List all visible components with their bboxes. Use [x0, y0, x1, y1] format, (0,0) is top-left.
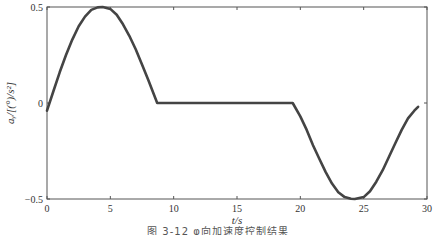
x-tick-label: 25 — [359, 203, 369, 214]
line-chart: 051015202530 −0.500.5 t/s aᵧ/[(°)/s²] — [0, 0, 436, 235]
y-tick-label: −0.5 — [25, 194, 43, 205]
x-tick-label: 30 — [422, 203, 432, 214]
y-tick-label: 0.5 — [31, 2, 44, 13]
x-tick-label: 10 — [169, 203, 179, 214]
data-series-line — [47, 7, 418, 199]
x-axis-ticks: 051015202530 — [45, 7, 433, 214]
y-axis-label: aᵧ/[(°)/s²] — [4, 82, 17, 124]
x-tick-label: 5 — [108, 203, 113, 214]
figure-caption: 图 3-12 φ向加速度控制结果 — [0, 223, 436, 235]
x-tick-label: 0 — [45, 203, 50, 214]
y-tick-label: 0 — [38, 98, 43, 109]
x-tick-label: 20 — [295, 203, 305, 214]
x-tick-label: 15 — [232, 203, 242, 214]
